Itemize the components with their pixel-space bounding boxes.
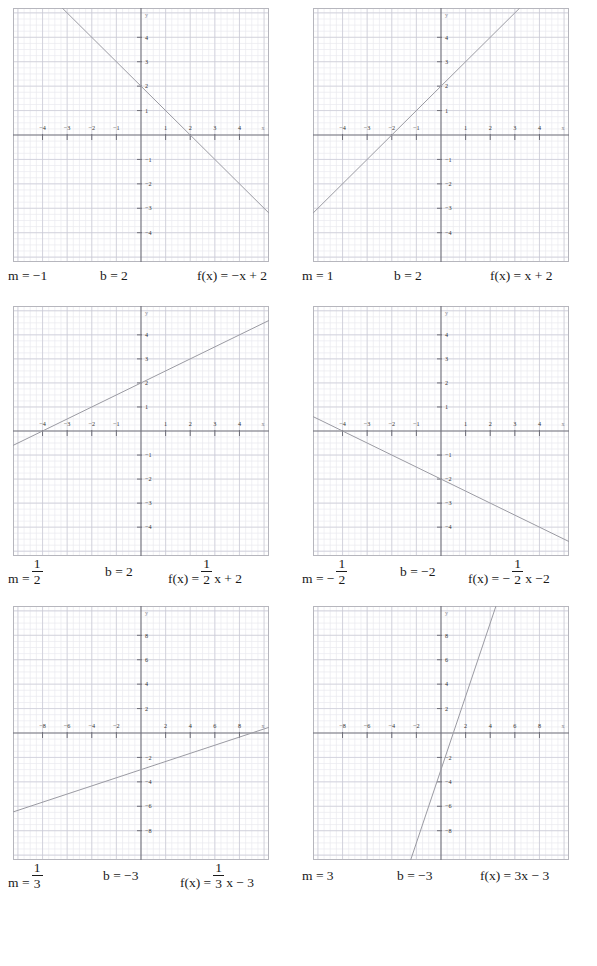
x-tick-label: −3: [64, 124, 71, 131]
graph-panel-5: −8−6−4−22468−8−6−4−22468xy m = 1 3 b = −…: [0, 602, 297, 914]
function-suffix-5: x − 3: [226, 875, 254, 891]
x-tick-label: 2: [464, 722, 467, 729]
graph-panel-2: −4−3−2−11234−4−3−2−11234xy m = 1 b = 2 f…: [300, 0, 597, 302]
x-tick-label: −1: [113, 420, 120, 427]
function-suffix-3: x + 2: [214, 571, 242, 587]
y-tick-label: 2: [445, 379, 448, 386]
intercept-label-5: b = −3: [103, 868, 138, 884]
function-fraction-5: 1 3: [213, 861, 224, 891]
graph-panel-3: −4−3−2−11234−4−3−2−11234xy m = 1 2 b = 2…: [0, 302, 297, 602]
y-tick-label: −4: [145, 229, 152, 236]
function-label-1: f(x) = −x + 2: [197, 268, 267, 284]
function-label-4: f(x) = − 1 2 x −2: [468, 564, 550, 594]
x-axis-label: x: [262, 723, 265, 729]
x-tick-label: 6: [513, 722, 516, 729]
y-tick-label: 2: [145, 82, 148, 89]
axes: [13, 306, 269, 556]
x-tick-label: 2: [189, 420, 192, 427]
x-tick-label: 3: [213, 124, 216, 131]
fraction-denominator: 2: [33, 573, 42, 587]
fraction-numerator: 1: [33, 861, 42, 875]
intercept-label-2: b = 2: [394, 268, 422, 284]
y-tick-label: 1: [145, 403, 148, 410]
y-tick-label: 4: [445, 34, 448, 41]
y-tick-label: −6: [445, 802, 452, 809]
fraction-numerator: 1: [214, 861, 223, 875]
x-tick-label: −6: [364, 722, 371, 729]
y-tick-label: 2: [445, 82, 448, 89]
x-tick-label: 2: [164, 722, 167, 729]
x-tick-label: 4: [538, 124, 541, 131]
fraction-denominator: 3: [33, 877, 42, 891]
x-tick-label: −4: [388, 722, 395, 729]
x-axis-label: x: [262, 125, 265, 131]
y-tick-label: −8: [445, 827, 452, 834]
intercept-label-3: b = 2: [105, 564, 133, 580]
y-tick-label: −2: [145, 475, 152, 482]
x-tick-label: 2: [189, 124, 192, 131]
x-tick-label: 3: [213, 420, 216, 427]
x-tick-label: −2: [413, 722, 420, 729]
x-axis-label: x: [262, 421, 265, 427]
plot-area-5: −8−6−4−22468−8−6−4−22468xy: [13, 606, 269, 860]
fraction-denominator: 2: [513, 573, 522, 587]
function-label-5: f(x) = 1 3 x − 3: [180, 868, 254, 898]
y-tick-label: 3: [145, 58, 148, 65]
y-tick-label: −1: [445, 156, 452, 163]
slope-text-3: m =: [8, 571, 30, 587]
coordinate-plane: −8−6−4−22468−8−6−4−22468xy: [313, 606, 569, 860]
fraction-numerator: 1: [202, 557, 211, 571]
y-tick-label: 3: [445, 58, 448, 65]
function-label-6: f(x) = 3x − 3: [480, 868, 549, 884]
x-axis-label: x: [562, 723, 565, 729]
y-tick-label: 1: [445, 107, 448, 114]
fraction-denominator: 2: [202, 573, 211, 587]
slope-text-5: m =: [8, 875, 30, 891]
x-tick-label: 8: [538, 722, 541, 729]
x-tick-label: 1: [164, 420, 167, 427]
y-tick-label: 1: [445, 403, 448, 410]
function-fraction-3: 1 2: [201, 557, 212, 587]
fraction-numerator: 1: [513, 557, 522, 571]
x-tick-label: −1: [113, 124, 120, 131]
y-tick-label: 4: [145, 680, 148, 687]
x-tick-label: 2: [489, 124, 492, 131]
x-tick-label: −4: [39, 420, 46, 427]
x-tick-label: −3: [64, 420, 71, 427]
y-tick-label: −3: [445, 499, 452, 506]
slope-fraction-5: 1 3: [32, 861, 43, 891]
y-axis-label: y: [145, 12, 148, 18]
coordinate-plane: −8−6−4−22468−8−6−4−22468xy: [13, 606, 269, 860]
x-axis-label: x: [562, 421, 565, 427]
intercept-label-4: b = −2: [400, 564, 435, 580]
y-tick-label: 2: [145, 705, 148, 712]
x-tick-label: −4: [339, 420, 346, 427]
x-tick-label: 1: [464, 420, 467, 427]
slope-label-4: m = − 1 2: [302, 564, 349, 594]
plot-area-3: −4−3−2−11234−4−3−2−11234xy: [13, 306, 269, 556]
intercept-label-6: b = −3: [397, 868, 432, 884]
plot-area-1: −4−3−2−11234−4−3−2−11234xy: [13, 8, 269, 262]
slope-fraction-3: 1 2: [32, 557, 43, 587]
function-suffix-4: x −2: [525, 571, 550, 587]
graph-panel-4: −4−3−2−11234−4−3−2−11234xy m = − 1 2 b =…: [300, 302, 597, 602]
axes: [13, 8, 269, 262]
y-tick-label: −2: [145, 754, 152, 761]
y-axis-label: y: [445, 12, 448, 18]
slope-label-3: m = 1 2: [8, 564, 45, 594]
y-tick-label: −8: [145, 827, 152, 834]
fraction-numerator: 1: [33, 557, 42, 571]
y-axis-label: y: [445, 610, 448, 616]
slope-label-1: m = −1: [8, 268, 47, 284]
slope-label-2: m = 1: [302, 268, 334, 284]
slope-text-4: m = −: [302, 571, 334, 587]
axes: [313, 8, 569, 262]
coordinate-plane: −4−3−2−11234−4−3−2−11234xy: [13, 8, 269, 262]
x-tick-label: −4: [39, 124, 46, 131]
y-tick-label: 3: [145, 355, 148, 362]
axes: [13, 606, 269, 860]
plot-area-6: −8−6−4−22468−8−6−4−22468xy: [313, 606, 569, 860]
slope-fraction-4: 1 2: [336, 557, 347, 587]
x-tick-label: −2: [388, 124, 395, 131]
function-fraction-4: 1 2: [512, 557, 523, 587]
